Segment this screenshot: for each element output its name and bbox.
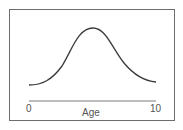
x-axis-title: Age <box>82 108 100 118</box>
bell-curve-line <box>29 28 156 85</box>
x-tick-label-max: 10 <box>150 104 161 114</box>
x-tick-label-min: 0 <box>26 104 32 114</box>
